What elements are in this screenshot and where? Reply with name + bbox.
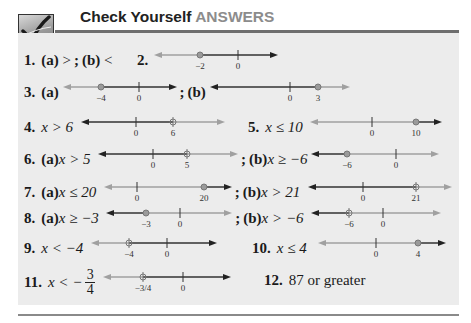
title-prefix: Check Yourself <box>80 8 191 25</box>
number-line: −6 0 <box>311 206 441 230</box>
svg-text:6: 6 <box>170 128 175 138</box>
part-label: (b) <box>249 151 267 168</box>
number-line: −2 0 <box>154 48 278 72</box>
answer-number: 2. <box>137 52 148 69</box>
inequality: x < − <box>48 274 82 291</box>
svg-text:0: 0 <box>151 160 156 170</box>
number-line: 0 5 <box>98 147 238 171</box>
answer-value: > <box>63 52 71 69</box>
svg-text:−4: −4 <box>96 93 106 103</box>
part-label: (a) <box>41 210 59 227</box>
inequality: x ≥ −6 <box>267 151 307 168</box>
answer-8: 8. (a) x ≥ −3 −3 0 ; (b) x > −6 −6 0 <box>24 208 441 228</box>
answer-number: 6. <box>24 151 35 168</box>
answer-9: 9. x < −4 −4 0 <box>24 238 217 258</box>
part-label: (a) <box>41 151 59 168</box>
svg-text:21: 21 <box>411 193 420 203</box>
svg-text:0: 0 <box>394 160 399 170</box>
part-label: (a) <box>41 84 59 101</box>
svg-text:0: 0 <box>133 128 138 138</box>
number-line: 0 10 <box>310 115 442 139</box>
number-line: −3/4 0 <box>103 270 231 294</box>
number-line: −4 0 <box>63 80 177 104</box>
answer-number: 11. <box>24 274 42 291</box>
answer-12: 12. 87 or greater <box>264 270 365 290</box>
svg-text:0: 0 <box>164 249 169 259</box>
separator: ; <box>180 84 185 101</box>
svg-text:10: 10 <box>412 128 422 138</box>
number-line: 0 3 <box>210 80 350 104</box>
number-line: 0 4 <box>318 236 446 260</box>
answer-1: 1. (a) > ; (b) < <box>24 50 113 70</box>
svg-text:0: 0 <box>370 128 375 138</box>
svg-text:0: 0 <box>134 193 139 203</box>
svg-text:0: 0 <box>181 283 186 293</box>
number-line: 0 21 <box>308 180 452 204</box>
inequality: x > 5 <box>59 151 91 168</box>
svg-text:3: 3 <box>315 93 320 103</box>
separator: ; <box>74 52 79 69</box>
answer-6: 6. (a) x > 5 0 5 ; (b) x ≥ −6 −6 0 <box>24 149 439 169</box>
svg-text:0: 0 <box>236 61 241 71</box>
part-label: (a) <box>41 184 59 201</box>
footer-rule <box>18 314 459 316</box>
inequality: x ≥ −3 <box>59 210 99 227</box>
separator: ; <box>235 184 240 201</box>
part-label: (b) <box>243 210 261 227</box>
answer-11: 11. x < − 3 4 −3/4 0 <box>24 272 231 292</box>
page-title: Check Yourself ANSWERS <box>80 8 274 26</box>
number-line: −3 0 <box>106 206 232 230</box>
answer-text: 87 or greater <box>289 272 366 289</box>
separator: ; <box>241 151 246 168</box>
fraction: 3 4 <box>85 268 95 297</box>
svg-text:0: 0 <box>361 193 366 203</box>
part-label: (b) <box>188 84 206 101</box>
svg-text:−3: −3 <box>141 219 151 229</box>
answer-3: 3. (a) −4 0 ; (b) 0 3 <box>24 82 350 102</box>
svg-text:0: 0 <box>381 219 386 229</box>
svg-text:0: 0 <box>136 93 141 103</box>
inequality: x < −4 <box>41 240 83 257</box>
svg-text:0: 0 <box>178 219 183 229</box>
svg-text:0: 0 <box>374 249 379 259</box>
svg-text:4: 4 <box>416 249 421 259</box>
svg-text:5: 5 <box>185 160 190 170</box>
part-label: (b) <box>243 184 261 201</box>
answer-number: 5. <box>248 119 259 136</box>
number-line: 0 20 <box>104 180 232 204</box>
answer-number: 4. <box>24 119 35 136</box>
inequality: x > 6 <box>41 119 73 136</box>
answer-5: 5. x ≤ 10 0 10 <box>248 117 442 137</box>
answer-number: 7. <box>24 184 35 201</box>
answer-4: 4. x > 6 0 6 <box>24 117 225 137</box>
inequality: x ≤ 20 <box>59 184 96 201</box>
inequality: x > 21 <box>261 184 300 201</box>
answer-number: 10. <box>252 240 271 257</box>
answer-number: 1. <box>24 52 35 69</box>
answer-number: 3. <box>24 84 35 101</box>
number-line: −4 0 <box>91 236 217 260</box>
part-label: (a) <box>41 52 59 69</box>
inequality: x > −6 <box>262 210 304 227</box>
separator: ; <box>235 210 240 227</box>
svg-text:20: 20 <box>199 193 209 203</box>
title-accent: ANSWERS <box>195 8 274 25</box>
answer-10: 10. x ≤ 4 0 4 <box>252 238 446 258</box>
svg-text:−4: −4 <box>124 249 134 259</box>
part-label: (b) <box>82 52 100 69</box>
svg-text:−2: −2 <box>195 61 205 71</box>
number-line: 0 6 <box>81 115 225 139</box>
answer-2: 2. −2 0 <box>137 50 278 70</box>
answer-value: < <box>104 52 112 69</box>
svg-text:−6: −6 <box>344 219 354 229</box>
answer-number: 8. <box>24 210 35 227</box>
answer-number: 12. <box>264 272 283 289</box>
svg-text:−6: −6 <box>342 160 352 170</box>
answer-number: 9. <box>24 240 35 257</box>
svg-text:0: 0 <box>287 93 292 103</box>
number-line: −6 0 <box>311 147 439 171</box>
answer-7: 7. (a) x ≤ 20 0 20 ; (b) x > 21 0 21 <box>24 182 452 202</box>
svg-text:−3/4: −3/4 <box>135 283 152 293</box>
inequality: x ≤ 10 <box>265 119 302 136</box>
inequality: x ≤ 4 <box>277 240 307 257</box>
